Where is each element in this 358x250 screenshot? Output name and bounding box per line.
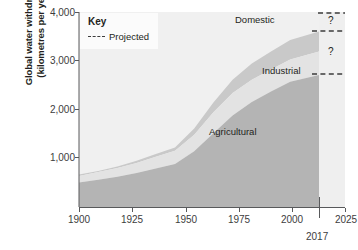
water-withdrawal-chart-figure: Global water withdrawal (kilometres per … <box>0 0 358 250</box>
series-label-domestic: Domestic <box>235 14 275 25</box>
legend-title: Key <box>88 16 106 27</box>
plot-area-svg <box>0 0 358 250</box>
series-label-industrial: Industrial <box>262 65 301 76</box>
x-tick-label-2000: 2000 <box>272 214 312 225</box>
x-tick-label-1925: 1925 <box>112 214 152 225</box>
year-2017-marker-line <box>319 197 320 218</box>
x-tick-mark-2025 <box>345 208 346 212</box>
x-tick-mark-2000 <box>292 208 293 212</box>
x-tick-mark-1900 <box>79 208 80 212</box>
legend-item-projected: Projected <box>109 31 149 42</box>
legend-dash-swatch <box>88 36 105 37</box>
question-mark-upper: ? <box>328 15 334 26</box>
question-mark-lower: ? <box>328 46 334 57</box>
x-tick-mark-1950 <box>186 208 187 212</box>
x-tick-mark-1975 <box>239 208 240 212</box>
x-tick-label-2025: 2025 <box>326 214 358 225</box>
year-2017-marker-label: 2017 <box>306 231 328 242</box>
x-tick-label-1950: 1950 <box>166 214 206 225</box>
series-label-agricultural: Agricultural <box>209 126 257 137</box>
x-tick-mark-1925 <box>132 208 133 212</box>
x-tick-label-1900: 1900 <box>59 214 99 225</box>
projection-background <box>319 12 345 207</box>
x-tick-label-1975: 1975 <box>219 214 259 225</box>
